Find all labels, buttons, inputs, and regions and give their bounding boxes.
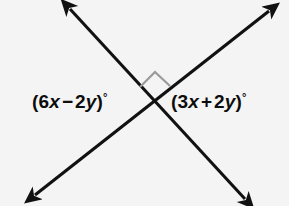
angle-label-right-variable-1: x	[188, 91, 199, 112]
angle-label-right-variable-2: y	[225, 91, 236, 112]
angle-label-left-variable-2: y	[86, 91, 97, 112]
angle-label-right-coefficient-2: 2	[214, 91, 225, 112]
angle-label-right-degree-symbol: °	[242, 91, 247, 103]
angle-label-left: (6x − 2y)°	[32, 92, 108, 111]
angle-label-left-coefficient-1: 6	[39, 91, 50, 112]
right-angle-square-icon	[140, 72, 170, 87]
angle-label-right-coefficient-1: 3	[178, 91, 189, 112]
angle-label-left-variable-1: x	[49, 91, 60, 112]
angle-label-right-operator: +	[201, 91, 212, 112]
angle-label-left-coefficient-2: 2	[75, 91, 86, 112]
angle-label-left-operator: −	[62, 91, 73, 112]
geometry-diagram: (6x − 2y)° (3x + 2y)°	[0, 0, 289, 206]
angle-label-right: (3x + 2y)°	[171, 92, 247, 111]
angle-label-left-degree-symbol: °	[103, 91, 108, 103]
